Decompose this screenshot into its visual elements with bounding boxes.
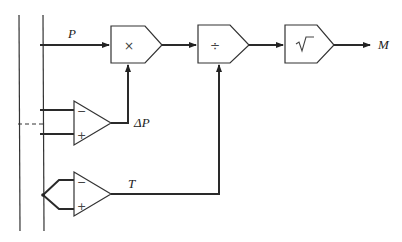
divide-icon: ÷ bbox=[210, 39, 220, 53]
dp-label: ΔP bbox=[133, 115, 150, 130]
multiply-block: × bbox=[111, 26, 162, 63]
pipe-wall-inner bbox=[43, 15, 44, 231]
dp-signal-line bbox=[111, 65, 128, 123]
output-label: M bbox=[377, 37, 390, 52]
pipe-wall-outer bbox=[19, 15, 20, 231]
svg-text:+: + bbox=[77, 129, 86, 142]
thermocouple-junction bbox=[41, 193, 45, 197]
multiply-icon: × bbox=[124, 39, 134, 53]
pressure-label: P bbox=[67, 26, 76, 41]
svg-text:−: − bbox=[77, 105, 86, 118]
temperature-amplifier: − + bbox=[41, 172, 111, 216]
sqrt-block bbox=[285, 25, 334, 63]
temperature-label: T bbox=[128, 176, 136, 191]
svg-text:+: + bbox=[77, 200, 86, 213]
block-diagram: P × ÷ M − + ΔP − + T bbox=[0, 0, 402, 242]
svg-text:−: − bbox=[77, 176, 86, 189]
dp-amplifier: − + bbox=[40, 101, 111, 145]
divide-block: ÷ bbox=[198, 25, 249, 63]
